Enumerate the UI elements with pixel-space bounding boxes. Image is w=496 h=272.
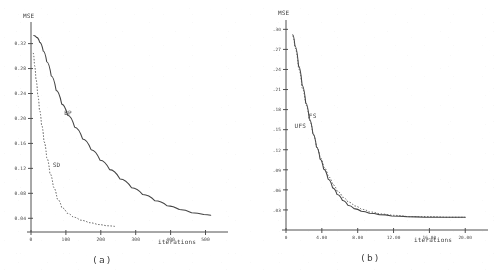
curve-label-ufs: UFS [295, 122, 307, 129]
x-tick-label: 4.00 [316, 235, 327, 240]
y-axis-title-a: MSE [23, 12, 35, 19]
x-tick-label: 200 [97, 237, 106, 242]
y-tick-label: .06 [273, 188, 281, 193]
y-tick-label: 0.24 [15, 91, 27, 96]
y-tick-label: 0.20 [15, 116, 27, 121]
curve-label-sd: SD [53, 161, 61, 168]
y-tick-label: 0.28 [15, 66, 27, 71]
y-tick-label: .27 [273, 47, 281, 52]
y-tick-label: .21 [273, 87, 281, 92]
curve-label-bp: BP [64, 109, 72, 116]
chart-a-curves [33, 35, 211, 226]
y-tick-label: .30 [273, 27, 281, 32]
x-tick-label: 8.00 [352, 235, 363, 240]
x-tick-label: 500 [201, 237, 210, 242]
chart-b-curves [293, 35, 466, 218]
x-tick-label: 20.00 [458, 235, 472, 240]
panel-a-caption: (a) [92, 254, 113, 265]
y-tick-label: .15 [273, 127, 281, 132]
y-tick-label: .18 [273, 107, 281, 112]
curve-sd [33, 53, 115, 226]
chart-a-axes [27, 22, 228, 232]
x-tick-label: 0 [30, 237, 33, 242]
curve-bp [34, 35, 211, 215]
x-tick-label: 12.00 [387, 235, 401, 240]
x-tick-label: 0 [285, 235, 288, 240]
y-tick-label: .09 [273, 168, 281, 173]
curve-ufs [293, 36, 466, 217]
y-tick-label: 0.16 [15, 141, 27, 146]
y-tick-label: 0.04 [15, 216, 27, 221]
panel-a: 0.040.080.120.160.200.240.280.32 0100200… [0, 0, 248, 272]
chart-a-curve-labels: BPSD [53, 109, 72, 168]
curve-fs [293, 35, 466, 218]
chart-b-svg: .03.06.09.12.15.18.21.24.27.30 04.008.00… [248, 0, 496, 272]
curve-label-fs: FS [309, 112, 317, 119]
y-tick-label: 0.32 [15, 41, 27, 46]
panel-b-caption: (b) [360, 252, 381, 263]
y-tick-label: .12 [273, 148, 281, 153]
x-tick-label: 100 [62, 237, 71, 242]
y-tick-label: 0.12 [15, 166, 27, 171]
y-axis-title-b: MSE [278, 9, 290, 16]
chart-a-yticks: 0.040.080.120.160.200.240.280.32 [15, 41, 33, 221]
chart-a-svg: 0.040.080.120.160.200.240.280.32 0100200… [0, 0, 248, 272]
panel-a-caption-svg: (a) [0, 243, 248, 272]
y-tick-label: .24 [273, 67, 281, 72]
y-tick-label: 0.08 [15, 191, 27, 196]
chart-b-axes [282, 20, 488, 230]
two-panel-figure: 0.040.080.120.160.200.240.280.32 0100200… [0, 0, 496, 272]
y-tick-label: .03 [273, 208, 281, 213]
chart-b-curve-labels: FSUFS [295, 112, 317, 130]
panel-b: .03.06.09.12.15.18.21.24.27.30 04.008.00… [248, 0, 496, 272]
x-tick-label: 300 [131, 237, 140, 242]
panel-b-caption-svg: (b) [248, 241, 496, 271]
